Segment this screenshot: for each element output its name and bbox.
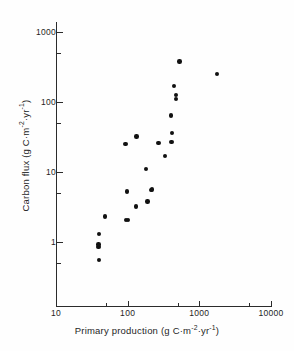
data-point — [125, 189, 129, 193]
data-point — [134, 204, 138, 208]
data-point — [97, 232, 101, 236]
x-axis-title-prefix: Primary production (g C·m — [75, 325, 191, 336]
y-tick-label: 1000 — [36, 27, 56, 37]
y-axis-title: Carbon flux (g C·m-2·yr-1) — [20, 56, 31, 256]
data-point — [174, 97, 178, 101]
data-point — [145, 199, 149, 203]
y-tick-label: 100 — [41, 97, 56, 107]
data-point — [215, 72, 219, 76]
x-tick-label: 1000 — [189, 308, 209, 318]
scatter-plot-figure: 110100100010100100010000 Carbon flux (g … — [0, 0, 294, 351]
data-point — [174, 93, 178, 97]
data-point — [134, 134, 138, 138]
x-axis-line — [56, 306, 272, 307]
data-point — [172, 84, 176, 88]
data-point — [97, 258, 101, 262]
data-point — [126, 218, 130, 222]
x-axis-title: Primary production (g C·m-2·yr-1) — [0, 325, 294, 336]
data-point — [144, 167, 148, 171]
data-point — [96, 242, 100, 246]
x-tick-label: 10000 — [258, 308, 283, 318]
data-point — [170, 131, 174, 135]
data-point — [150, 187, 154, 191]
y-tick-label: 10 — [46, 167, 56, 177]
y-axis-title-exponent-2: -1 — [18, 103, 25, 109]
x-tick-label: 10 — [51, 308, 61, 318]
x-tick-major — [271, 301, 272, 307]
y-axis-title-mid: ·yr — [20, 109, 31, 121]
data-point — [169, 140, 173, 144]
data-point — [156, 141, 160, 145]
y-axis-title-prefix: Carbon flux (g C·m — [20, 128, 31, 212]
x-axis-title-suffix: ) — [216, 325, 219, 336]
data-point — [163, 154, 167, 158]
x-axis-title-mid: ·yr — [198, 325, 210, 336]
data-point — [177, 59, 181, 63]
x-tick-label: 100 — [120, 308, 135, 318]
y-axis-title-exponent-1: -2 — [18, 121, 25, 127]
data-point — [123, 142, 127, 146]
data-point — [169, 113, 173, 117]
data-point — [103, 214, 107, 218]
plot-area — [56, 22, 271, 306]
y-axis-title-suffix: ) — [20, 100, 31, 103]
